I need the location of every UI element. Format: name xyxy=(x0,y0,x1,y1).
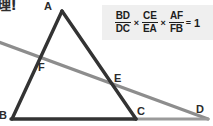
fraction-ce-ea: CE EA xyxy=(142,11,158,35)
fraction-numerator: CE xyxy=(142,11,158,21)
vertex-label-a: A xyxy=(44,1,52,12)
multiply-operator: × xyxy=(133,18,140,28)
fraction-bd-dc: BD DC xyxy=(115,11,131,35)
figure-canvas: 理! A B C D E F BD DC × CE EA × AF FB xyxy=(0,0,213,126)
fraction-af-fb: AF FB xyxy=(169,11,184,35)
fraction-denominator: DC xyxy=(115,24,131,34)
formula-box: BD DC × CE EA × AF FB = 1 xyxy=(102,5,213,40)
fraction-numerator: AF xyxy=(169,11,184,21)
vertex-label-f: F xyxy=(38,62,45,73)
multiply-operator: × xyxy=(160,18,167,28)
vertex-label-e: E xyxy=(114,73,121,84)
formula-result: 1 xyxy=(193,17,200,29)
formula-expression: BD DC × CE EA × AF FB = 1 xyxy=(115,11,200,35)
vertex-label-b: B xyxy=(0,110,7,121)
fraction-numerator: BD xyxy=(115,11,131,21)
fraction-denominator: FB xyxy=(169,24,184,34)
vertex-label-d: D xyxy=(196,104,204,115)
vertex-label-c: C xyxy=(137,106,145,117)
fraction-denominator: EA xyxy=(142,24,158,34)
caption-text: 理! xyxy=(0,0,16,13)
equals-operator: = xyxy=(186,18,191,28)
triangle-side-ab xyxy=(12,11,62,119)
